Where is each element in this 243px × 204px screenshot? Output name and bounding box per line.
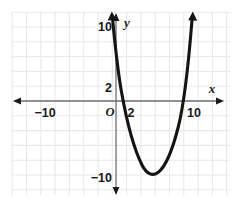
y-axis-label: y (122, 15, 130, 30)
y-tick-label-10: 10 (98, 20, 112, 34)
x-tick-label-2: 2 (128, 106, 135, 120)
grid-vertical-lines (12, 12, 227, 195)
coordinate-plane-svg: 10 2 −10 −10 2 10 O y x (0, 0, 243, 204)
x-axis-left-arrow-icon (13, 98, 21, 105)
grid-lines (12, 12, 230, 195)
x-axis-label: x (208, 81, 216, 96)
origin-label: O (105, 105, 114, 119)
x-tick-label-minus-10: −10 (34, 106, 55, 120)
parabola-right-arrow-icon (188, 12, 197, 21)
axes (13, 13, 224, 195)
y-tick-label-2: 2 (105, 81, 112, 95)
x-axis-right-arrow-icon (216, 98, 224, 105)
graph-figure: 10 2 −10 −10 2 10 O y x (0, 0, 243, 204)
y-axis-bottom-arrow-icon (113, 187, 120, 195)
y-tick-label-minus-10: −10 (91, 171, 112, 185)
x-tick-label-10: 10 (187, 106, 201, 120)
